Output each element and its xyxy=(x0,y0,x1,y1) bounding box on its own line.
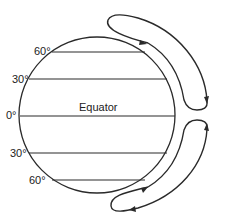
label-0: 0° xyxy=(6,109,17,121)
northern-circulation-arrow xyxy=(108,15,208,110)
label-60n: 60° xyxy=(34,45,51,57)
label-30n: 30° xyxy=(12,73,29,85)
earth-circle xyxy=(19,37,175,193)
southern-circulation-arrow xyxy=(111,120,207,211)
label-equator: Equator xyxy=(79,101,118,113)
arrowhead-icon xyxy=(141,187,148,193)
label-60s: 60° xyxy=(29,174,46,186)
arrowhead-icon xyxy=(204,96,209,104)
arrowhead-icon xyxy=(129,206,136,212)
arrowhead-icon xyxy=(204,123,209,131)
label-30s: 30° xyxy=(10,147,27,159)
circulation-diagram: 60° 30° 0° Equator 30° 60° xyxy=(0,0,231,222)
